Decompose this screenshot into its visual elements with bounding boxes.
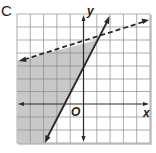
y-axis-label: y xyxy=(87,4,94,18)
x-axis-label: x xyxy=(143,106,150,120)
origin-label: O xyxy=(71,105,80,119)
inequality-graph xyxy=(0,0,156,153)
panel-label: C xyxy=(1,2,12,19)
